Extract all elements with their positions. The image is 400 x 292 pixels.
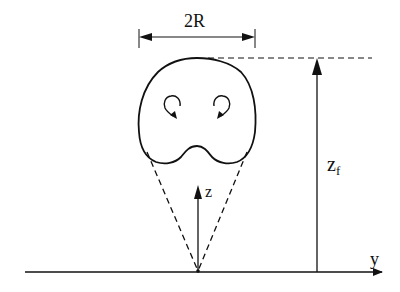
width-dimension-arrow (139, 29, 255, 48)
spread-cone-dashed-lines (147, 152, 247, 271)
z-axis-arrow (194, 185, 202, 273)
diagram-canvas: 2R zf z y (0, 0, 400, 292)
height-label-subscript: f (336, 163, 340, 178)
height-dimension-arrow (312, 58, 322, 272)
cloud-outline (139, 58, 256, 163)
height-label: zf (327, 154, 340, 177)
height-label-main: z (327, 153, 336, 175)
diagram-svg (0, 0, 400, 292)
right-vortex (214, 96, 230, 119)
width-label: 2R (184, 12, 205, 30)
left-vortex (164, 96, 180, 119)
z-axis-label: z (205, 184, 212, 200)
y-axis-label: y (370, 250, 379, 268)
